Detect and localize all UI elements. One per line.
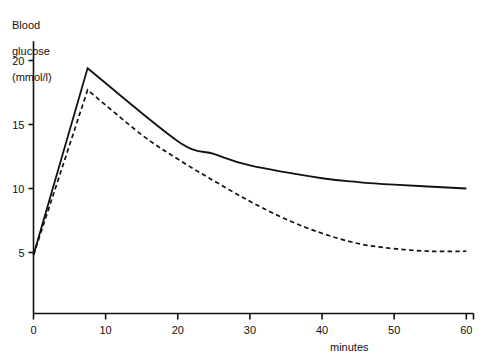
blood-glucose-chart: Blood glucose (mmol/l) minutes 5101520 0… <box>0 0 490 361</box>
series-solid-curve <box>34 68 467 255</box>
y-axis-tick-label: 15 <box>12 119 24 131</box>
y-axis-title-line-3: (mmol/l) <box>12 71 52 84</box>
x-axis-tick-label: 40 <box>316 324 328 336</box>
x-axis: 0102030405060 <box>30 314 473 336</box>
x-axis-tick-label: 20 <box>172 324 184 336</box>
x-axis-tick-label: 0 <box>30 324 36 336</box>
data-series-group <box>34 68 467 255</box>
series-dashed-curve <box>34 90 467 255</box>
x-axis-tick-label: 50 <box>388 324 400 336</box>
y-axis-tick-label: 10 <box>12 183 24 195</box>
y-axis-title: Blood glucose (mmol/l) <box>12 6 52 97</box>
x-axis-tick-label: 30 <box>244 324 256 336</box>
plot-area: 5101520 0102030405060 <box>0 0 490 361</box>
x-axis-tick-label: 10 <box>100 324 112 336</box>
y-axis-tick-label: 5 <box>18 247 24 259</box>
x-axis-tick-label: 60 <box>460 324 472 336</box>
x-axis-title: minutes <box>330 341 369 354</box>
y-axis-title-line-1: Blood <box>12 19 52 32</box>
y-axis-title-line-2: glucose <box>12 45 52 58</box>
